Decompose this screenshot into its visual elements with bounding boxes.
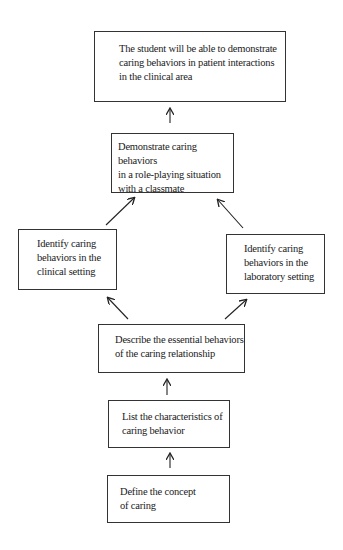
node-list-line-2: caring behavior xyxy=(122,424,229,438)
node-list-line-1: List the characteristics of xyxy=(122,410,229,424)
node-goal-line-2: caring behaviors in patient interactions xyxy=(119,56,285,70)
node-define: Define the concept of caring xyxy=(107,475,230,523)
node-laboratory-line-2: behaviors in the xyxy=(244,256,324,270)
node-define-line-1: Define the concept xyxy=(120,485,229,499)
node-roleplay-line-3: with a classmate xyxy=(118,182,233,196)
node-roleplay: Demonstrate caring behaviors in a role-p… xyxy=(111,133,234,193)
node-clinical-line-3: clinical setting xyxy=(37,265,116,279)
arrow-laboratory-to-roleplay xyxy=(218,200,243,228)
node-roleplay-line-2: in a role-playing situation xyxy=(118,168,233,182)
arrow-clinical-to-roleplay xyxy=(106,198,134,225)
node-describe-line-1: Describe the essential behaviors xyxy=(115,333,244,347)
node-clinical-line-2: behaviors in the xyxy=(37,251,116,265)
arrow-describe-to-clinical xyxy=(108,298,128,319)
node-clinical: Identify caring behaviors in the clinica… xyxy=(18,229,117,290)
node-laboratory-line-1: Identify caring xyxy=(244,242,324,256)
node-list: List the characteristics of caring behav… xyxy=(108,400,230,448)
node-laboratory: Identify caring behaviors in the laborat… xyxy=(226,234,325,294)
node-define-line-2: of caring xyxy=(120,499,229,513)
arrow-describe-to-laboratory xyxy=(225,300,246,319)
node-laboratory-line-3: laboratory setting xyxy=(244,270,324,284)
node-goal-line-1: The student will be able to demonstrate xyxy=(119,42,285,56)
node-goal-line-3: in the clinical area xyxy=(119,70,285,84)
node-clinical-line-1: Identify caring xyxy=(37,237,116,251)
node-describe-line-2: of the caring relationship xyxy=(115,347,244,361)
node-roleplay-line-1: Demonstrate caring behaviors xyxy=(118,140,233,168)
node-goal: The student will be able to demonstrate … xyxy=(94,31,286,102)
node-describe: Describe the essential behaviors of the … xyxy=(98,324,245,373)
